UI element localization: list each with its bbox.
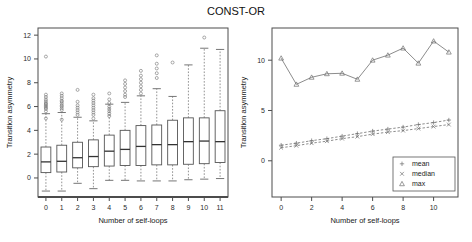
box-group xyxy=(89,93,99,189)
legend: meanmedianmax xyxy=(393,157,455,191)
box-iqr xyxy=(73,142,83,168)
series-line xyxy=(281,41,449,84)
box-group xyxy=(136,69,146,181)
outlier-point xyxy=(139,92,142,95)
x-axis-title: Number of self-loops xyxy=(98,216,167,225)
outlier-point xyxy=(139,81,142,84)
outlier-point xyxy=(108,92,111,95)
series-line xyxy=(281,120,449,145)
legend-label-median: median xyxy=(412,170,435,177)
series-max xyxy=(279,39,452,87)
outlier-point xyxy=(76,100,79,103)
chart-title: CONST-OR xyxy=(207,5,265,17)
box-iqr xyxy=(168,120,178,165)
box-iqr xyxy=(120,130,130,165)
outlier-point xyxy=(139,85,142,88)
x-tick-label: 6 xyxy=(139,204,143,211)
x-tick-label: 1 xyxy=(60,204,64,211)
box-group xyxy=(57,92,67,191)
y-axis-title: Transition asymmetry xyxy=(5,77,14,149)
x-tick-label: 0 xyxy=(44,204,48,211)
y-tick-label: 5 xyxy=(261,107,265,114)
x-tick-label: 4 xyxy=(107,204,111,211)
x-tick-label: 6 xyxy=(371,204,375,211)
outlier-point xyxy=(155,76,158,79)
outlier-point xyxy=(155,54,158,57)
outlier-point xyxy=(139,69,142,72)
x-tick-label: 11 xyxy=(216,204,223,211)
x-tick-label: 10 xyxy=(200,204,208,211)
x-tick-label: 8 xyxy=(401,204,405,211)
box-group xyxy=(199,36,209,179)
x-tick-label: 9 xyxy=(186,204,190,211)
outlier-point xyxy=(92,93,95,96)
box-iqr xyxy=(215,111,225,163)
x-tick-label: 5 xyxy=(123,204,127,211)
box-group xyxy=(41,55,51,191)
chart-canvas: CONST-OR 024681012Transition asymmetry01… xyxy=(0,0,472,242)
y-tick-label: 8 xyxy=(27,79,31,86)
box-group xyxy=(104,92,114,180)
series-median xyxy=(279,123,451,150)
x-tick-label: 7 xyxy=(155,204,159,211)
y-tick-label: 6 xyxy=(27,103,31,110)
box-iqr xyxy=(89,140,99,167)
legend-label-mean: mean xyxy=(412,160,430,167)
y-axis-title: Transition asymmetry xyxy=(239,77,248,149)
outlier-point xyxy=(139,88,142,91)
boxplot-panel: 024681012Transition asymmetry01234567891… xyxy=(5,28,228,225)
box-group xyxy=(120,79,130,180)
box-iqr xyxy=(57,145,67,172)
box-group xyxy=(215,49,225,178)
box-group xyxy=(152,54,162,181)
x-tick-label: 8 xyxy=(171,204,175,211)
outlier-point xyxy=(124,90,127,93)
x-tick-label: 3 xyxy=(91,204,95,211)
y-tick-label: 0 xyxy=(261,157,265,164)
y-tick-label: 10 xyxy=(23,55,31,62)
figure-panel: CONST-OR 024681012Transition asymmetry01… xyxy=(0,0,472,242)
outlier-point xyxy=(139,78,142,81)
legend-label-max: max xyxy=(412,180,426,187)
box-group xyxy=(184,65,194,180)
series-line xyxy=(281,125,449,148)
outlier-point xyxy=(155,62,158,65)
box-iqr xyxy=(136,126,146,166)
y-tick-label: 2 xyxy=(27,151,31,158)
outlier-point xyxy=(155,72,158,75)
box-group xyxy=(73,88,83,183)
outlier-point xyxy=(92,117,95,120)
outlier-point xyxy=(124,79,127,82)
x-tick-label: 2 xyxy=(310,204,314,211)
outlier-point xyxy=(76,88,79,91)
box-iqr xyxy=(41,147,51,173)
summary-line-panel: 05100246810Transition asymmetryNumber of… xyxy=(239,28,458,225)
x-tick-label: 0 xyxy=(279,204,283,211)
y-tick-label: 0 xyxy=(27,174,31,181)
outlier-point xyxy=(124,86,127,89)
box-group xyxy=(168,61,178,181)
x-tick-label: 10 xyxy=(430,204,438,211)
outlier-point xyxy=(155,67,158,70)
outlier-point xyxy=(124,82,127,85)
x-tick-label: 4 xyxy=(340,204,344,211)
y-tick-label: 12 xyxy=(23,32,31,39)
outlier-point xyxy=(171,61,174,64)
outlier-point xyxy=(203,36,206,39)
outlier-point xyxy=(139,74,142,77)
y-tick-label: 10 xyxy=(257,57,265,64)
x-tick-label: 2 xyxy=(76,204,80,211)
outlier-point xyxy=(44,55,47,58)
y-tick-label: 4 xyxy=(27,127,31,134)
series-mean xyxy=(279,118,451,148)
series-marker xyxy=(279,56,284,60)
x-axis-title: Number of self-loops xyxy=(330,216,399,225)
outlier-point xyxy=(108,98,111,101)
